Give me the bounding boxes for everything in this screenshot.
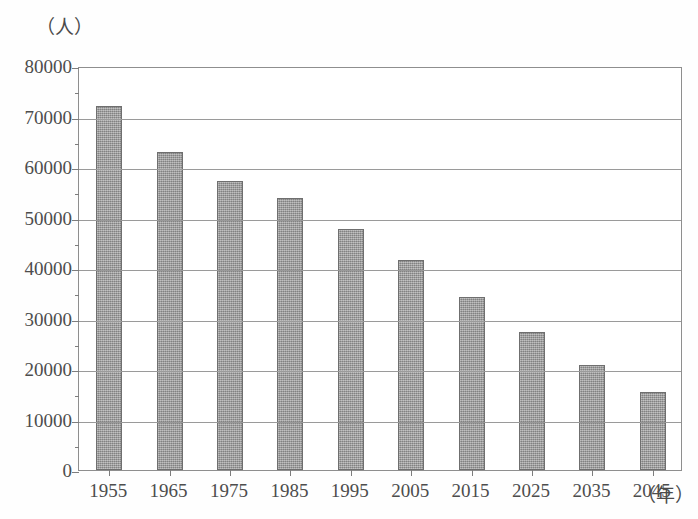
x-tick-mark: [411, 470, 412, 476]
gridline: [79, 422, 681, 423]
x-tick-mark: [653, 470, 654, 476]
gridline: [79, 220, 681, 221]
x-tick-mark: [592, 470, 593, 476]
x-tick-mark: [472, 470, 473, 476]
y-axis-unit-label: （人）: [36, 12, 93, 39]
bar: [217, 181, 243, 470]
bar-chart-figure: （人） 010000200003000040000500006000070000…: [0, 0, 698, 519]
y-tick-label: 80000: [25, 56, 73, 78]
y-tick-mark: [72, 270, 79, 271]
y-minor-tick-mark: [75, 144, 79, 145]
y-tick-label: 50000: [25, 208, 73, 230]
bar: [579, 365, 605, 470]
bar: [459, 297, 485, 470]
y-tick-mark: [72, 371, 79, 372]
x-tick-mark: [351, 470, 352, 476]
gridline: [79, 321, 681, 322]
y-tick-mark: [72, 68, 79, 69]
bar: [519, 332, 545, 470]
y-minor-tick-mark: [75, 194, 79, 195]
y-minor-tick-mark: [75, 245, 79, 246]
y-tick-label: 40000: [25, 258, 73, 280]
y-tick-label: 0: [63, 460, 73, 482]
y-tick-mark: [72, 321, 79, 322]
x-tick-mark: [532, 470, 533, 476]
bar: [96, 106, 122, 470]
bar: [277, 198, 303, 470]
y-tick-mark: [72, 220, 79, 221]
y-tick-mark: [72, 169, 79, 170]
y-tick-label: 70000: [25, 107, 73, 129]
x-tick-mark: [230, 470, 231, 476]
bars-layer: [79, 68, 681, 470]
y-tick-label: 20000: [25, 359, 73, 381]
y-minor-tick-mark: [75, 447, 79, 448]
y-tick-mark: [72, 119, 79, 120]
bar: [398, 260, 424, 470]
gridline: [79, 270, 681, 271]
x-tick-mark: [109, 470, 110, 476]
gridline: [79, 169, 681, 170]
x-axis-unit-label: （年）: [637, 480, 694, 507]
bar: [338, 229, 364, 470]
y-minor-tick-mark: [75, 295, 79, 296]
y-tick-mark: [72, 422, 79, 423]
gridline: [79, 371, 681, 372]
x-tick-mark: [290, 470, 291, 476]
x-tick-mark: [170, 470, 171, 476]
y-minor-tick-mark: [75, 346, 79, 347]
y-minor-tick-mark: [75, 396, 79, 397]
y-tick-mark: [72, 472, 79, 473]
plot-area: [78, 67, 682, 471]
y-tick-label: 10000: [25, 410, 73, 432]
y-minor-tick-mark: [75, 93, 79, 94]
gridline: [79, 119, 681, 120]
y-tick-label: 30000: [25, 309, 73, 331]
bar: [640, 392, 666, 470]
y-tick-label: 60000: [25, 157, 73, 179]
